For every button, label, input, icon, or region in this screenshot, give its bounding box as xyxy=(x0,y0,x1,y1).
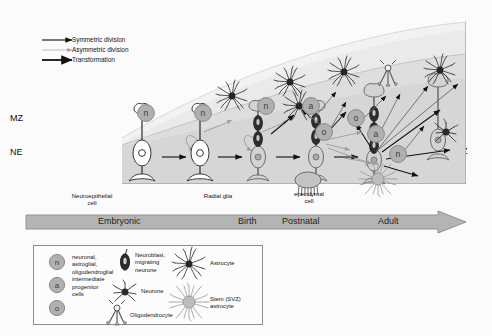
figure-root: MZ NE MZ MA SVZ VZ xyxy=(0,0,492,336)
svg-text:a: a xyxy=(55,281,60,290)
key-label-transformation: Transformation xyxy=(72,56,115,63)
svg-text:a: a xyxy=(309,101,314,111)
legend-label-neuroblast: Neuroblast, migrating neurone xyxy=(135,252,165,274)
svg-text:n: n xyxy=(396,149,401,159)
legend-label-oligodendrocyte: Oligodendrocyte xyxy=(130,312,173,319)
lg-oligo xyxy=(106,300,126,325)
legend-label-neurone: Neurone xyxy=(141,288,164,295)
legend-label-astrocyte: Astrocyte xyxy=(210,260,235,267)
zone-label-left-mz: MZ xyxy=(10,113,23,123)
svg-text:n: n xyxy=(144,108,149,118)
lg-astrocyte xyxy=(172,247,205,279)
svg-text:a: a xyxy=(374,129,379,139)
lg-neurone xyxy=(113,280,136,301)
svg-text:n: n xyxy=(55,258,59,267)
stage-label-neuroepithelial: Neuroepithelial cell xyxy=(42,192,142,207)
zone-label-left-ne: NE xyxy=(10,147,23,157)
legend-box: n a o xyxy=(33,245,263,325)
svg-text:o: o xyxy=(322,127,327,137)
stage-label-radial-glia: Radial glia xyxy=(178,192,258,199)
timeline-stage-embryonic: Embryonic xyxy=(98,216,141,226)
legend-label-stem-astrocyte: Stem (SVZ) astrocyte xyxy=(210,296,241,311)
key-label-asymmetric: Asymmetric division xyxy=(72,46,128,53)
timeline-stage-birth: Birth xyxy=(238,216,257,226)
lg-neuroblast xyxy=(120,249,129,270)
legend-progenitor-text: neuronal, astroglial, oligodendroglial i… xyxy=(72,254,113,299)
svg-text:n: n xyxy=(201,108,206,118)
svg-text:n: n xyxy=(264,101,269,111)
timeline-stage-adult: Adult xyxy=(378,216,399,226)
timeline-stage-postnatal: Postnatal xyxy=(282,216,320,226)
stage-label-ependymal: ependymal cell xyxy=(274,190,344,205)
svg-text:o: o xyxy=(55,304,60,313)
lg-stem-astrocyte xyxy=(169,283,209,321)
key-label-symmetric: Symmetric division xyxy=(72,36,125,43)
timeline: Embryonic Birth Postnatal Adult xyxy=(26,211,466,237)
svg-text:o: o xyxy=(354,113,359,123)
